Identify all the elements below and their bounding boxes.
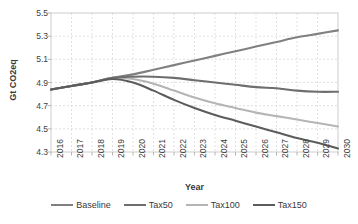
x-tick-label: 2023 xyxy=(198,139,208,158)
legend-item-baseline[interactable]: Baseline xyxy=(51,200,111,210)
legend-item-tax150[interactable]: Tax150 xyxy=(253,200,307,210)
x-tick-label: 2022 xyxy=(178,139,188,158)
legend-label: Baseline xyxy=(76,200,111,210)
x-tick-label: 2028 xyxy=(301,139,311,158)
legend-label: Tax150 xyxy=(278,200,307,210)
x-tick-label: 2016 xyxy=(55,139,65,158)
x-tick-label: 2027 xyxy=(280,139,290,158)
chart-container: Gt CO2eq 4.34.54.74.95.15.35.5 201620172… xyxy=(0,0,358,224)
x-axis-title: Year xyxy=(51,182,338,192)
x-tick-label: 2020 xyxy=(137,139,147,158)
x-tick-label: 2018 xyxy=(96,139,106,158)
x-tick-label: 2017 xyxy=(75,139,85,158)
x-tick-label: 2029 xyxy=(321,139,331,158)
legend-label: Tax50 xyxy=(149,200,173,210)
x-tick-label: 2019 xyxy=(116,139,126,158)
legend-swatch-icon xyxy=(124,204,146,207)
x-tick-label: 2024 xyxy=(219,139,229,158)
x-tick-label: 2026 xyxy=(260,139,270,158)
legend-swatch-icon xyxy=(253,204,275,207)
x-tick-label: 2030 xyxy=(342,139,352,158)
chart-legend: BaselineTax50Tax100Tax150 xyxy=(0,200,358,210)
x-tick-label: 2025 xyxy=(239,139,249,158)
legend-item-tax50[interactable]: Tax50 xyxy=(124,200,173,210)
legend-swatch-icon xyxy=(186,204,208,207)
legend-item-tax100[interactable]: Tax100 xyxy=(186,200,240,210)
x-tick-label: 2021 xyxy=(157,139,167,158)
legend-label: Tax100 xyxy=(211,200,240,210)
legend-swatch-icon xyxy=(51,204,73,207)
